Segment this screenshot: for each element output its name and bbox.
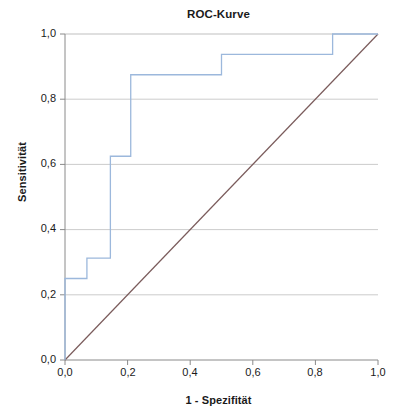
- reference-diagonal-line: [65, 34, 378, 360]
- plot-area: [0, 0, 409, 419]
- roc-chart: ROC-Kurve Sensitivität 1 - Spezifität 1,…: [0, 0, 409, 419]
